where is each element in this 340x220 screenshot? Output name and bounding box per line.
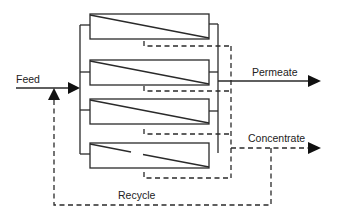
feed-arrow-icon bbox=[68, 82, 80, 94]
membrane-module-3 bbox=[90, 99, 209, 124]
membrane-module-1 bbox=[90, 14, 209, 39]
membrane-system-diagram: Feed Permeate Concentrate Recycle bbox=[0, 0, 340, 220]
concentrate-label: Concentrate bbox=[248, 132, 305, 144]
recycle-arrow-icon bbox=[48, 88, 60, 100]
feed-label: Feed bbox=[16, 73, 40, 85]
membrane-module-2 bbox=[90, 60, 209, 85]
permeate-label: Permeate bbox=[252, 66, 298, 78]
permeate-arrow-icon bbox=[308, 75, 321, 87]
recycle-label: Recycle bbox=[118, 189, 156, 201]
concentrate-branch-4 bbox=[144, 172, 231, 178]
membrane-module-4 bbox=[90, 143, 209, 168]
concentrate-arrow-icon bbox=[308, 142, 321, 154]
